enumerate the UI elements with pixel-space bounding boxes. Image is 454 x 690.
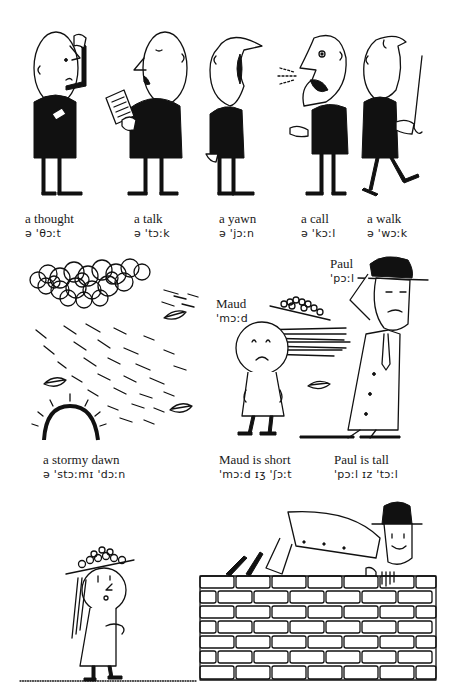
man-walking-illustration [356,28,446,198]
man-thinking-illustration [26,28,106,198]
caption-maud-is-short: Maud is short 'mɔːd ɪʒ 'ʃɔːt [219,452,292,482]
caption-a-thought: a thought ə 'θɔːt [25,211,74,241]
maud-and-paul-wind-illustration [200,250,440,440]
caption-word: a thought [25,211,74,226]
caption-word: a walk [367,211,408,226]
caption-a-walk: a walk ə 'wɔːk [367,211,408,241]
caption-word: Paul is tall [334,452,398,467]
caption-a-yawn: a yawn ə 'jɔːn [219,211,256,241]
girl-and-wall-illustration [20,498,440,683]
caption-ipa: ə 'θɔːt [25,226,74,241]
caption-paul-is-tall: Paul is tall 'pɔːl ɪz 'tɔːl [334,452,398,482]
caption-ipa: ə 'tɔːk [134,226,170,241]
caption-ipa: 'mɔːd ɪʒ 'ʃɔːt [219,467,292,482]
caption-word: a yawn [219,211,256,226]
girl-in-flower-hat [66,547,134,681]
caption-word: a call [301,211,336,226]
caption-word: a stormy dawn [43,452,126,467]
rising-sun-icon [32,394,106,440]
flying-flower-hat-icon [270,297,330,320]
stormy-dawn-illustration [24,258,214,443]
man-calling-illustration [276,28,366,198]
caption-ipa: ə 'kɔːl [301,226,336,241]
leaf-icon [44,311,192,412]
caption-word: Maud is short [219,452,292,467]
storm-cloud-icon [30,259,150,308]
caption-word: a talk [134,211,170,226]
man-talking-illustration [100,28,195,198]
caption-a-stormy-dawn: a stormy dawn ə 'stɔːmɪ 'dɔːn [43,452,126,482]
maud-figure [236,322,288,435]
paul-lying-on-wall [226,502,422,580]
brick-wall [200,576,436,680]
caption-ipa: ə 'wɔːk [367,226,408,241]
caption-a-talk: a talk ə 'tɔːk [134,211,170,241]
caption-ipa: 'pɔːl ɪz 'tɔːl [334,467,398,482]
caption-ipa: ə 'jɔːn [219,226,256,241]
caption-a-call: a call ə 'kɔːl [301,211,336,241]
caption-ipa: ə 'stɔːmɪ 'dɔːn [43,467,126,482]
rain-streaks [36,290,198,424]
man-yawning-illustration [200,28,280,198]
